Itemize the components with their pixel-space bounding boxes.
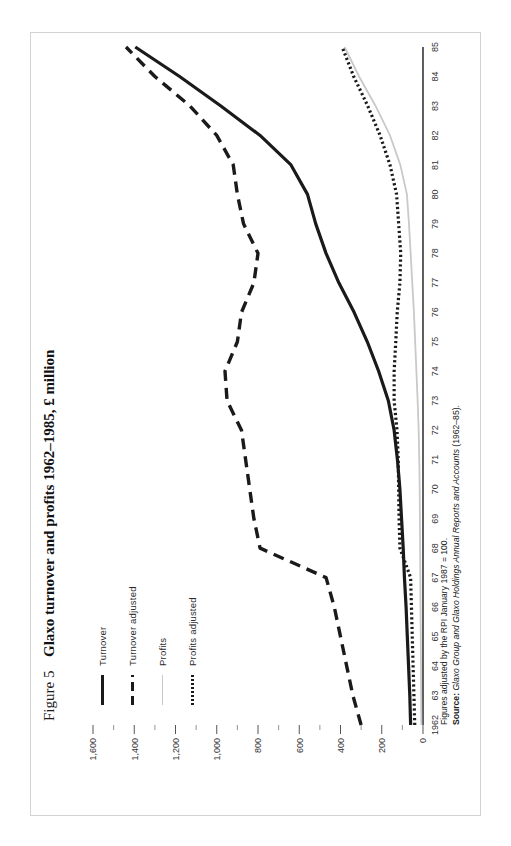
x-tick-label: 75 — [430, 337, 440, 347]
x-tick-label: 79 — [430, 219, 440, 229]
note-source: Source: Glaxo Group and Glaxo Holdings A… — [451, 405, 463, 725]
x-tick-label: 83 — [430, 101, 440, 111]
rotated-figure-stage: Figure 5 Glaxo turnover and profits 1962… — [31, 33, 482, 817]
y-tick-label: 1,400 — [130, 738, 140, 761]
y-tick-label: 1,000 — [212, 738, 222, 761]
x-tick-label: 78 — [430, 248, 440, 258]
figure-page: Figure 5 Glaxo turnover and profits 1962… — [0, 0, 511, 846]
x-tick-label: 80 — [430, 189, 440, 199]
x-tick-label: 76 — [430, 307, 440, 317]
y-axis: 02004006008001,0001,2001,4001,600 — [88, 47, 428, 761]
x-tick-label: 77 — [430, 278, 440, 288]
y-tick-label: 400 — [336, 738, 346, 753]
line-chart: 02004006008001,0001,2001,4001,600 196263… — [31, 33, 482, 817]
figure-notes: Figures adjusted by the RPI January 1987… — [439, 405, 462, 725]
x-tick-label: 85 — [430, 42, 440, 52]
x-tick-label: 84 — [430, 71, 440, 81]
x-tick-label: 74 — [430, 366, 440, 376]
source-label: Source: — [451, 693, 461, 725]
note-line-1: Figures adjusted by the RPI January 1987… — [439, 405, 451, 725]
y-tick-label: 200 — [377, 738, 387, 753]
x-tick-label: 81 — [430, 160, 440, 170]
source-title: Glaxo Group and Glaxo Holdings Annual Re… — [451, 449, 461, 691]
x-tick-label: 82 — [430, 130, 440, 140]
series-line-turnover-adjusted — [126, 47, 361, 725]
chart-series — [126, 47, 421, 725]
y-tick-label: 0 — [418, 738, 428, 743]
series-line-profits-adjusted — [342, 47, 415, 725]
y-tick-label: 800 — [253, 738, 263, 753]
figure-frame: Figure 5 Glaxo turnover and profits 1962… — [30, 32, 481, 816]
y-tick-label: 600 — [295, 738, 305, 753]
series-line-turnover — [135, 47, 410, 725]
y-tick-label: 1,200 — [171, 738, 181, 761]
y-tick-label: 1,600 — [88, 738, 98, 761]
source-years: (1962–85). — [451, 405, 461, 449]
